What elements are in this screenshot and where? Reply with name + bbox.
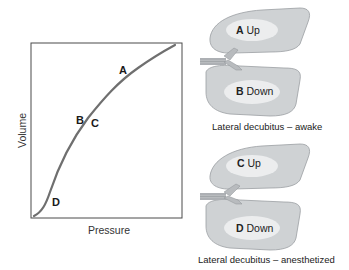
awake-caption: Lateral decubitus – awake bbox=[212, 121, 322, 132]
chart-frame bbox=[31, 43, 182, 218]
y-axis-label: Volume bbox=[16, 113, 28, 148]
anesthetized-up-lobe-label: C Up bbox=[237, 157, 261, 169]
anesthetized-up-letter: C bbox=[237, 157, 245, 169]
awake-down-letter: B bbox=[236, 85, 244, 97]
chart-point-b-label: B bbox=[76, 114, 84, 126]
awake-up-letter: A bbox=[236, 24, 244, 36]
anesthetized-up-text: Up bbox=[248, 157, 261, 169]
awake-down-lobe-label: B Down bbox=[236, 85, 273, 97]
awake-up-text: Up bbox=[247, 24, 260, 36]
anesthetized-caption: Lateral decubitus – anesthetized bbox=[198, 254, 335, 265]
anesthetized-down-text: Down bbox=[247, 222, 274, 234]
awake-up-lobe-label: A Up bbox=[236, 24, 260, 36]
anesthetized-down-lobe-label: D Down bbox=[236, 222, 273, 234]
chart-point-d-label: D bbox=[52, 196, 60, 208]
pressure-volume-chart bbox=[0, 0, 349, 270]
chart-point-a-label: A bbox=[119, 64, 127, 76]
anesthetized-down-letter: D bbox=[236, 222, 244, 234]
pressure-volume-curve bbox=[34, 45, 175, 216]
awake-down-text: Down bbox=[247, 85, 274, 97]
x-axis-label: Pressure bbox=[88, 224, 130, 236]
chart-point-c-label: C bbox=[91, 117, 99, 129]
